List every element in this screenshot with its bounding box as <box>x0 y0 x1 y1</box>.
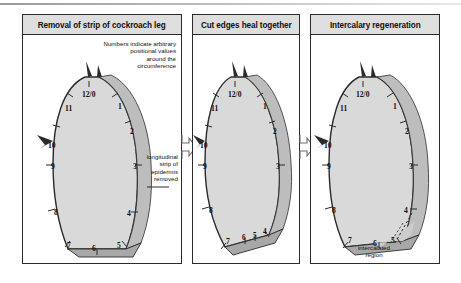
position-label-8: 8 <box>332 206 336 215</box>
panel-title: Intercalary regeneration <box>330 20 421 30</box>
intercalated-note: intercalated region <box>339 244 409 258</box>
position-label-9: 9 <box>327 162 331 171</box>
leg-diagram-heal: 12/0 1 2 3 4 5 6 7 8 9 10 11 <box>193 35 299 264</box>
panel-intercalary: Intercalary regeneration <box>310 14 440 264</box>
numbers-note: Numbers indicate arbitrary positional va… <box>90 40 176 70</box>
position-label-10: 10 <box>48 141 56 150</box>
bristle-icon <box>243 65 248 77</box>
position-label-9: 9 <box>51 162 55 171</box>
position-label-10: 10 <box>200 141 208 150</box>
panel-title: Cut edges heal together <box>201 20 292 30</box>
position-label-10: 10 <box>324 141 332 150</box>
top-rule <box>0 3 461 5</box>
bristle-icon <box>371 65 376 77</box>
position-label-5: 5 <box>117 241 121 250</box>
panel-body: Numbers indicate arbitrary positional va… <box>23 35 181 264</box>
panel-header: Cut edges heal together <box>193 15 299 35</box>
bristle-icon <box>232 61 238 77</box>
position-label-9: 9 <box>203 162 207 171</box>
position-label-3: 3 <box>276 162 280 171</box>
position-label-2: 2 <box>273 127 277 136</box>
position-label-1: 1 <box>118 102 122 111</box>
panel-body: 12/0 1 2 3 4 5 6 7 8 9 10 11 <box>193 35 299 264</box>
panel-heal: Cut edges heal together <box>192 14 300 264</box>
figure-root: Removal of strip of cockroach leg Number… <box>0 0 461 283</box>
position-label-12-0: 12/0 <box>228 90 242 99</box>
position-label-12-0: 12/0 <box>82 90 96 99</box>
panel-header: Intercalary regeneration <box>311 15 439 35</box>
position-label-2: 2 <box>405 127 409 136</box>
panel-header: Removal of strip of cockroach leg <box>23 15 181 35</box>
position-label-2: 2 <box>130 127 134 136</box>
position-label-8: 8 <box>209 206 213 215</box>
position-label-11: 11 <box>65 104 72 113</box>
position-label-6: 6 <box>92 244 96 253</box>
position-label-3: 3 <box>409 162 413 171</box>
position-label-4: 4 <box>404 206 408 215</box>
strip-note: longitudinal strip of epidermis removed <box>136 153 178 183</box>
position-label-1: 1 <box>263 102 267 111</box>
panel-body: 12/0 1 2 3 4 5 6 7 8 9 10 11 intercalate… <box>311 35 439 264</box>
position-label-11: 11 <box>340 104 347 113</box>
position-label-4: 4 <box>127 209 131 218</box>
panel-title: Removal of strip of cockroach leg <box>38 20 166 30</box>
leg-diagram-intercalary: 12/0 1 2 3 4 5 6 7 8 9 10 11 <box>311 35 439 264</box>
position-label-5: 5 <box>253 232 257 240</box>
position-label-6: 6 <box>242 234 246 242</box>
position-label-7: 7 <box>67 241 71 250</box>
position-label-8: 8 <box>54 208 58 217</box>
position-label-11: 11 <box>211 104 218 113</box>
position-label-1: 1 <box>393 102 397 111</box>
panel-removal: Removal of strip of cockroach leg Number… <box>22 14 182 264</box>
position-label-4: 4 <box>263 228 267 236</box>
position-label-7: 7 <box>226 237 230 246</box>
bristle-icon <box>360 61 366 77</box>
position-label-12-0: 12/0 <box>356 90 370 99</box>
